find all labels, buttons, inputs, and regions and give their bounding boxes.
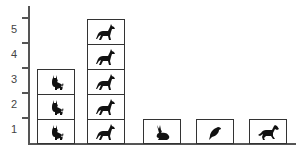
y-tick-label: 2 [8, 98, 20, 110]
bird-icon [203, 122, 227, 142]
pictogram-cell [37, 119, 75, 144]
pictogram-cell [196, 119, 234, 144]
pictogram-cell [87, 19, 125, 44]
pictogram-cell [87, 94, 125, 119]
horse-icon [256, 122, 280, 142]
y-tick-label: 3 [8, 73, 20, 85]
y-tick [22, 67, 29, 69]
rabbit-icon [150, 122, 174, 142]
y-tick [22, 17, 29, 19]
pictogram-cell [87, 119, 125, 144]
y-tick [22, 92, 29, 94]
y-tick [22, 117, 29, 119]
pictogram-cell [37, 69, 75, 94]
dog-icon [94, 47, 118, 67]
y-tick-label: 4 [8, 48, 20, 60]
bar-cat [37, 69, 75, 144]
bar-rabbit [143, 119, 181, 144]
dog-icon [94, 122, 118, 142]
y-tick-label: 1 [8, 123, 20, 135]
cat-icon [44, 97, 68, 117]
y-tick [22, 42, 29, 44]
dog-icon [94, 22, 118, 42]
cat-icon [44, 122, 68, 142]
pictogram-cell [87, 44, 125, 69]
pictogram-cell [37, 94, 75, 119]
bar-horse [249, 119, 287, 144]
bar-bird [196, 119, 234, 144]
pictogram-cell [87, 69, 125, 94]
dog-icon [94, 72, 118, 92]
y-axis [28, 6, 30, 144]
y-tick-label: 5 [8, 23, 20, 35]
bar-dog [87, 19, 125, 144]
pictogram-cell [143, 119, 181, 144]
cat-icon [44, 72, 68, 92]
pictogram-cell [249, 119, 287, 144]
dog-icon [94, 97, 118, 117]
